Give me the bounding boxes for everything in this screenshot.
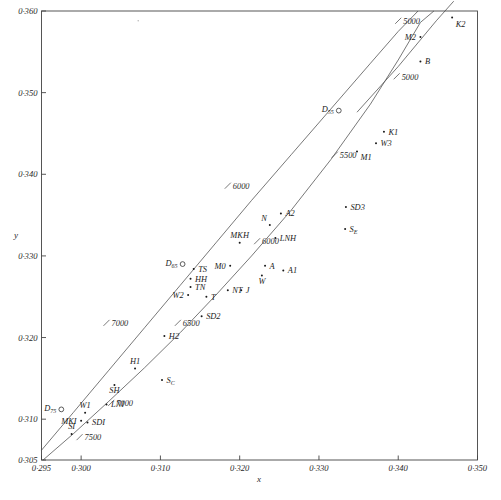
x-tick-label-0·340: 0·340	[389, 463, 409, 473]
data-point-M0	[229, 265, 231, 267]
data-point-MKH	[239, 242, 241, 244]
temperature-label-6500: 6500	[183, 319, 201, 328]
stray-marks	[137, 20, 139, 22]
point-label-A: A	[269, 262, 276, 271]
point-label-SD2: SD2	[206, 312, 220, 321]
point-label-M2: M2	[404, 33, 416, 42]
y-tick-label-0·310: 0·310	[18, 414, 38, 424]
point-label-M1: M1	[360, 153, 372, 162]
y-tick-label-0·340: 0·340	[18, 169, 38, 179]
data-point-SE	[344, 228, 346, 230]
point-label-K1: K1	[387, 128, 398, 137]
data-point-A	[264, 265, 266, 267]
data-point-W2	[187, 294, 189, 296]
temperature-label-7000: 7000	[116, 399, 134, 408]
point-label-M0: M0	[213, 262, 226, 271]
point-label-A2: A2	[284, 209, 294, 218]
point-label-W: W	[258, 277, 266, 286]
y-tick-label-0·350: 0·350	[18, 88, 38, 98]
data-point-SD2	[201, 315, 203, 317]
point-label-SD3: SD3	[350, 203, 364, 212]
point-label-SI: SI	[68, 422, 76, 431]
data-point-A1	[282, 270, 284, 272]
point-label-H2: H2	[168, 332, 179, 341]
temperature-label-6000: 6000	[262, 237, 280, 246]
data-point-MKI	[80, 420, 82, 422]
x-tick-label-0·310: 0·310	[151, 463, 171, 473]
y-tick-label-0·320: 0·320	[18, 333, 38, 343]
data-point-K2	[451, 17, 453, 19]
point-label-W1: W1	[80, 401, 91, 410]
data-point-T	[205, 296, 207, 298]
data-point-HH	[190, 278, 192, 280]
point-label-SDI: SDI	[92, 418, 106, 427]
point-label-K2: K2	[455, 20, 466, 29]
point-label-B: B	[425, 57, 430, 66]
point-label-TN: TN	[195, 283, 206, 292]
data-point-LNI	[106, 403, 108, 405]
data-point-W3	[375, 142, 377, 144]
y-tick-label-0·330: 0·330	[18, 251, 38, 261]
temperature-label-5000: 5000	[402, 73, 420, 82]
x-tick-label-0·320: 0·320	[230, 463, 250, 473]
y-axis-title: y	[13, 230, 18, 240]
data-point-H1	[134, 368, 136, 370]
x-tick-label-0·300: 0·300	[71, 463, 91, 473]
data-point-SD3	[345, 206, 347, 208]
data-point-J	[240, 289, 242, 291]
point-label-W3: W3	[381, 139, 392, 148]
x-tick-label-0·330: 0·330	[309, 463, 329, 473]
data-point-TN	[190, 286, 192, 288]
data-point-A2	[280, 212, 282, 214]
y-tick-label-0·360: 0·360	[18, 6, 38, 16]
data-point-W1	[84, 412, 86, 414]
data-point-SDI	[86, 421, 88, 423]
temperature-label-5500: 5500	[340, 151, 358, 160]
x-tick-label-0·350: 0·350	[468, 463, 488, 473]
stray-speck	[137, 20, 139, 22]
point-label-N: N	[260, 214, 267, 223]
point-label-A1: A1	[287, 266, 297, 275]
x-axis-title: x	[256, 474, 261, 484]
point-label-TS: TS	[198, 265, 208, 274]
y-tick-label-0·305: 0·305	[18, 455, 38, 465]
temperature-label-5000: 5000	[403, 17, 421, 26]
data-point-NT	[227, 289, 229, 291]
data-point-M2	[419, 36, 421, 38]
data-point-SI	[71, 433, 73, 435]
data-point-K1	[383, 131, 385, 133]
data-point-TS	[193, 268, 195, 270]
point-label-LNH: LNH	[279, 234, 297, 243]
data-point-N	[269, 224, 271, 226]
data-point-H2	[163, 335, 165, 337]
data-point-B	[419, 61, 421, 63]
point-label-W2: W2	[172, 291, 183, 300]
temperature-label-6000: 6000	[233, 182, 251, 191]
temperature-label-7000: 7000	[112, 319, 130, 328]
point-label-SH: SH	[109, 386, 120, 395]
point-label-H1: H1	[129, 357, 140, 366]
data-point-SC	[161, 379, 163, 381]
point-label-MKH: MKH	[229, 231, 250, 240]
chromaticity-chart: K2M2BK1W3M1SD3SEA2NLNHMKHM0AA1WTSHHTNW2T…	[0, 0, 501, 500]
chart-canvas: K2M2BK1W3M1SD3SEA2NLNHMKHM0AA1WTSHHTNW2T…	[0, 0, 501, 500]
temperature-label-7500: 7500	[85, 433, 103, 442]
